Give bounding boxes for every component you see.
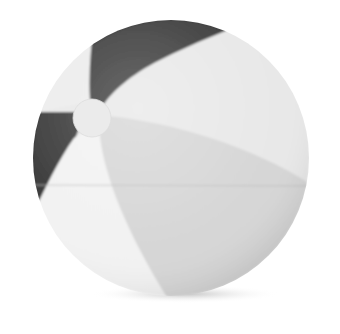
beach-ball xyxy=(0,0,340,334)
photo-stage: Grayscale product photo of an inflatable… xyxy=(0,0,340,334)
valve-cap xyxy=(73,99,111,137)
beach-ball-image xyxy=(0,0,340,334)
